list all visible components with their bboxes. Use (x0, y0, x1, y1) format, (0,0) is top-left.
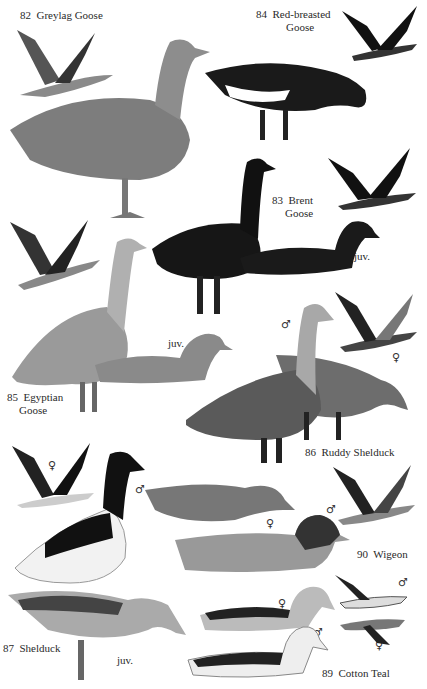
species-name-line2: Goose (256, 21, 314, 33)
species-name: Red-breasted (273, 8, 331, 20)
wigeon-flying-illustration (333, 465, 418, 525)
ruddy-shelduck-illustration (186, 300, 411, 468)
species-number: 82 (20, 9, 31, 21)
species-number: 90 (357, 548, 368, 560)
label-red-breasted-goose: 84 Red-breasted Goose (256, 8, 331, 34)
brent-goose-juvenile-illustration (240, 218, 380, 280)
brent-goose-flying-illustration (328, 148, 418, 210)
shelduck-juvenile-illustration (8, 585, 188, 685)
red-breasted-goose-illustration (205, 55, 375, 150)
species-number: 84 (256, 8, 267, 20)
species-name: Cotton Teal (339, 667, 390, 679)
label-brent-goose: 83 Brent Goose (272, 194, 313, 220)
cotton-teal-male-illustration (188, 625, 328, 680)
species-name: Greylag Goose (37, 9, 103, 21)
label-cotton-teal: 89 Cotton Teal (322, 667, 390, 680)
species-name: Wigeon (373, 548, 407, 560)
label-wigeon: 90 Wigeon (357, 548, 408, 561)
wigeon-illustration (145, 480, 350, 580)
label-greylag-goose: 82 Greylag Goose (20, 9, 103, 22)
species-name: Brent (289, 194, 313, 206)
red-breasted-goose-flying-illustration (342, 6, 422, 61)
cotton-teal-flying-illustration (335, 575, 410, 645)
egyptian-goose-illustration (12, 232, 147, 417)
shelduck-illustration (15, 448, 147, 588)
